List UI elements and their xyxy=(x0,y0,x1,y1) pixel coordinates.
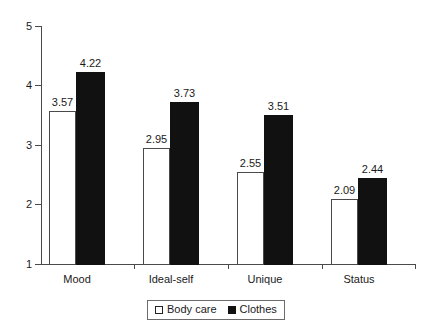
y-axis-line xyxy=(41,26,42,265)
x-axis-category-label-ideal-self: Ideal-self xyxy=(136,273,206,286)
x-axis-category-label-mood: Mood xyxy=(42,273,112,286)
bar-body-care-unique xyxy=(237,172,264,265)
bar-value-clothes-mood: 4.22 xyxy=(68,57,113,69)
chart-legend: Body care Clothes xyxy=(147,300,285,320)
bar-value-clothes-unique: 3.51 xyxy=(256,100,301,112)
y-axis-tick xyxy=(35,85,41,86)
legend-item-clothes: Clothes xyxy=(228,303,277,316)
y-axis-tick xyxy=(35,145,41,146)
x-axis-tick xyxy=(134,264,135,269)
bar-body-care-status xyxy=(331,199,358,265)
bar-value-clothes-status: 2.44 xyxy=(350,163,395,175)
y-axis-tick xyxy=(35,264,41,265)
y-axis-tick-label: 1 xyxy=(18,259,32,270)
legend-item-body-care: Body care xyxy=(155,303,217,316)
x-axis-tick xyxy=(322,264,323,269)
bar-body-care-mood xyxy=(49,111,76,265)
bar-clothes-unique xyxy=(264,115,293,265)
y-axis-tick-label: 2 xyxy=(18,199,32,210)
filled-square-swatch-icon xyxy=(228,306,236,314)
legend-label-body-care: Body care xyxy=(167,303,217,316)
y-axis-tick-label: 5 xyxy=(18,21,32,32)
bar-clothes-mood xyxy=(76,72,105,265)
bar-clothes-status xyxy=(358,178,387,265)
x-axis-category-label-unique: Unique xyxy=(230,273,300,286)
legend-label-clothes: Clothes xyxy=(240,303,277,316)
x-axis-category-label-status: Status xyxy=(324,273,394,286)
y-axis-tick xyxy=(35,26,41,27)
y-axis-tick-label: 4 xyxy=(18,80,32,91)
y-axis-tick-label: 3 xyxy=(18,140,32,151)
open-square-swatch-icon xyxy=(155,306,163,314)
x-axis-tick xyxy=(415,264,416,269)
y-axis-tick xyxy=(35,204,41,205)
x-axis-tick xyxy=(228,264,229,269)
bar-clothes-ideal-self xyxy=(170,102,199,265)
bar-value-clothes-ideal-self: 3.73 xyxy=(162,87,207,99)
bar-body-care-ideal-self xyxy=(143,148,170,265)
bar-chart: 5 4 3 2 1 3.57 4.22 Mood 2.95 3.73 Ideal… xyxy=(0,0,434,329)
